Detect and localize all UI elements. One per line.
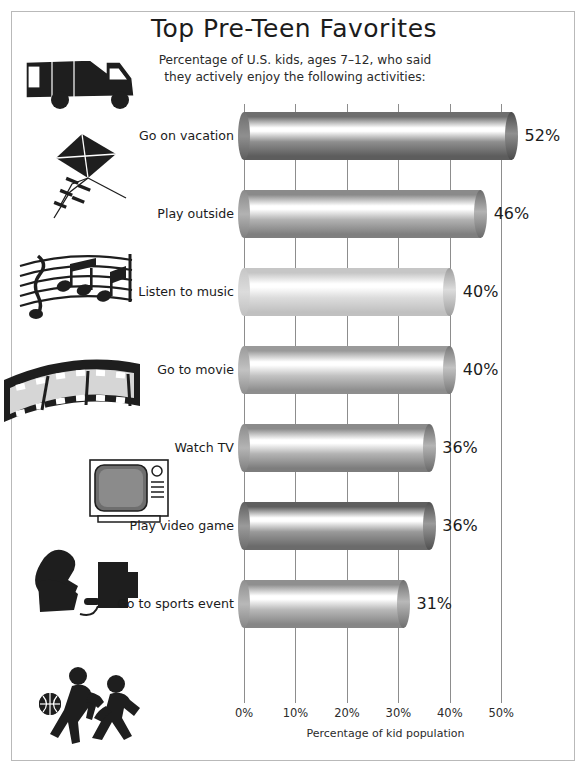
bar-end-cap (505, 112, 518, 160)
chart-subtitle-line-1: Percentage of U.S. kids, ages 7–12, who … (130, 52, 460, 69)
bar-value-label: 40% (463, 282, 499, 301)
x-tick-label: 30% (386, 706, 412, 720)
bar-left-cap (238, 424, 250, 472)
basketball-players-icon (34, 662, 162, 762)
bar-category-label: Go on vacation (0, 128, 234, 143)
bar-play-video-game[interactable] (244, 502, 429, 550)
x-tick-mark (347, 696, 348, 703)
x-tick-mark (501, 696, 502, 703)
bar-end-cap (443, 268, 456, 316)
bar-left-cap (238, 190, 250, 238)
chart-title: Top Pre-Teen Favorites (0, 14, 588, 43)
bar-left-cap (238, 268, 250, 316)
gridline-50 (501, 104, 502, 696)
bar-body (244, 346, 450, 394)
bar-body (244, 190, 481, 238)
bar-category-label: Go to sports event (0, 596, 234, 611)
x-tick-mark (295, 696, 296, 703)
bar-left-cap (238, 502, 250, 550)
rv-camper-icon (16, 52, 138, 118)
x-tick-label: 50% (488, 706, 514, 720)
bar-category-label: Go to movie (0, 362, 234, 377)
bar-go-to-sports-event[interactable] (244, 580, 404, 628)
bar-body (244, 580, 404, 628)
bar-end-cap (443, 346, 456, 394)
bar-value-label: 31% (417, 594, 453, 613)
x-tick-mark (244, 696, 245, 703)
bar-end-cap (397, 580, 410, 628)
bar-category-label: Play outside (0, 206, 234, 221)
bar-end-cap (423, 502, 436, 550)
chart-subtitle-line-2: they actively enjoy the following activi… (130, 69, 460, 86)
bar-listen-to-music[interactable] (244, 268, 450, 316)
bar-go-on-vacation[interactable] (244, 112, 512, 160)
bar-value-label: 52% (525, 126, 561, 145)
video-gamer-icon (30, 540, 146, 626)
bar-left-cap (238, 580, 250, 628)
x-tick-label: 20% (334, 706, 360, 720)
x-tick-label: 0% (235, 706, 253, 720)
bar-left-cap (238, 346, 250, 394)
bar-watch-tv[interactable] (244, 424, 429, 472)
bar-go-to-movie[interactable] (244, 346, 450, 394)
bar-value-label: 46% (494, 204, 530, 223)
bar-value-label: 40% (463, 360, 499, 379)
bar-body (244, 268, 450, 316)
x-tick-mark (450, 696, 451, 703)
x-axis-title: Percentage of kid population (244, 727, 527, 740)
bar-left-cap (238, 112, 250, 160)
bar-body (244, 424, 429, 472)
bar-play-outside[interactable] (244, 190, 481, 238)
x-tick-mark (398, 696, 399, 703)
x-tick-label: 10% (283, 706, 309, 720)
bar-category-label: Play video game (0, 518, 234, 533)
chart-plot-area: 0%10%20%30%40%50%Go on vacation52%Play o… (244, 104, 527, 696)
bar-category-label: Watch TV (0, 440, 234, 455)
bar-body (244, 112, 512, 160)
bar-end-cap (423, 424, 436, 472)
bar-end-cap (474, 190, 487, 238)
bar-value-label: 36% (442, 516, 478, 535)
bar-value-label: 36% (442, 438, 478, 457)
bar-category-label: Listen to music (0, 284, 234, 299)
bar-body (244, 502, 429, 550)
chart-subtitle: Percentage of U.S. kids, ages 7–12, who … (130, 52, 460, 85)
x-tick-label: 40% (437, 706, 463, 720)
